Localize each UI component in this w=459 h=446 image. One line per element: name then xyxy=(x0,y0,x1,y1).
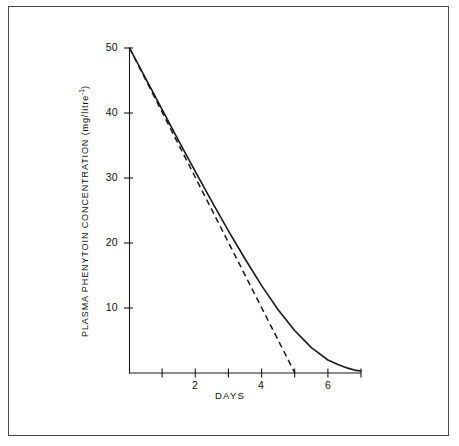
data-series-group xyxy=(130,48,362,373)
axis-lines xyxy=(129,48,361,374)
series-dashed-line xyxy=(130,48,295,373)
chart-canvas xyxy=(0,0,459,446)
plot-area: 50 40 30 20 10 2 4 6 DAYS PLASMA PHENYTO… xyxy=(0,0,459,446)
y-axis-title-tail: ) xyxy=(80,85,90,89)
y-axis-title: PLASMA PHENYTOIN CONCENTRATION (mg/litre… xyxy=(78,81,90,341)
y-tick-label-10: 10 xyxy=(92,302,118,313)
series-solid-line xyxy=(130,48,362,371)
x-tick-label-6: 6 xyxy=(316,380,340,391)
y-tick-label-30: 30 xyxy=(92,172,118,183)
y-axis-title-text: PLASMA PHENYTOIN CONCENTRATION (mg/litre xyxy=(80,95,90,337)
y-tick-label-20: 20 xyxy=(92,237,118,248)
figure-root: 50 40 30 20 10 2 4 6 DAYS PLASMA PHENYTO… xyxy=(0,0,459,446)
y-tick-label-40: 40 xyxy=(92,107,118,118)
y-axis-ticks xyxy=(124,48,133,308)
x-axis-title: DAYS xyxy=(185,390,275,401)
y-tick-label-50: 50 xyxy=(92,42,118,53)
y-axis-title-exponent: -1 xyxy=(78,89,85,95)
